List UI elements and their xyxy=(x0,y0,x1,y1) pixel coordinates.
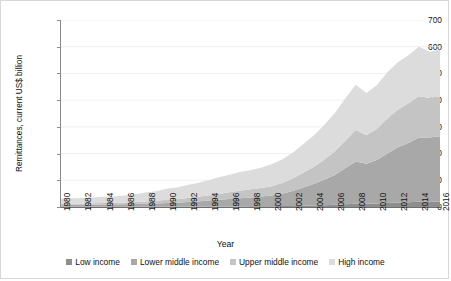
x-tick-label: 2000 xyxy=(275,193,283,211)
x-axis-title: Year xyxy=(1,239,450,249)
legend-label: High income xyxy=(338,257,385,267)
legend-label: Lower middle income xyxy=(140,257,219,267)
legend-swatch-icon xyxy=(230,259,236,265)
y-axis-title: Remittances, current US$ billion xyxy=(15,24,24,204)
x-tick-label: 1984 xyxy=(107,193,115,211)
x-tick-label: 2008 xyxy=(359,193,367,211)
x-tick-label: 1994 xyxy=(212,193,220,211)
x-tick-label: 2006 xyxy=(338,193,346,211)
stacked-area-plot xyxy=(61,20,440,207)
legend-label: Low income xyxy=(75,257,120,267)
x-tick-label: 1990 xyxy=(170,193,178,211)
x-tick-label: 2010 xyxy=(380,193,388,211)
x-tick-label: 2016 xyxy=(443,193,451,211)
x-tick-label: 1986 xyxy=(128,193,136,211)
chart-figure: Remittances, current US$ billion 0100200… xyxy=(0,0,449,279)
legend-item[interactable]: Lower middle income xyxy=(131,257,219,267)
x-tick-label: 2012 xyxy=(401,193,409,211)
x-tick-label: 1982 xyxy=(85,193,93,211)
legend-item[interactable]: Low income xyxy=(66,257,120,267)
legend-swatch-icon xyxy=(66,259,72,265)
x-tick-label: 2002 xyxy=(296,193,304,211)
legend-item[interactable]: High income xyxy=(329,257,385,267)
x-tick-label: 1992 xyxy=(191,193,199,211)
chart-legend: Low incomeLower middle incomeUpper middl… xyxy=(1,257,450,267)
legend-swatch-icon xyxy=(131,259,137,265)
plot-area xyxy=(61,20,440,207)
legend-item[interactable]: Upper middle income xyxy=(230,257,318,267)
legend-swatch-icon xyxy=(329,259,335,265)
y-tick-mark xyxy=(57,207,61,208)
x-tick-label: 1980 xyxy=(64,193,72,211)
x-tick-label: 1988 xyxy=(149,193,157,211)
x-tick-label: 1998 xyxy=(254,193,262,211)
x-tick-label: 2004 xyxy=(317,193,325,211)
x-tick-label: 1996 xyxy=(233,193,241,211)
x-tick-label: 2014 xyxy=(422,193,430,211)
legend-label: Upper middle income xyxy=(239,257,318,267)
